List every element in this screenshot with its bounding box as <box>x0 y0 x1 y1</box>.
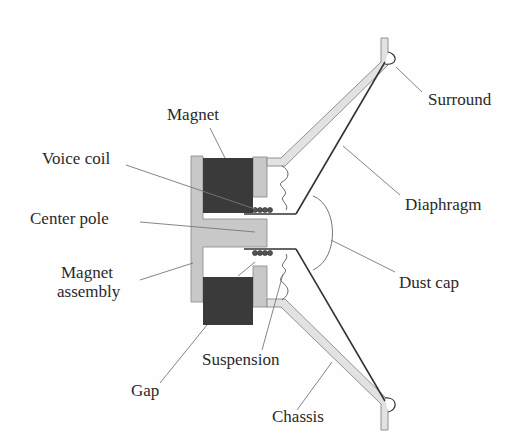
top-plate <box>253 157 267 197</box>
leader-surround <box>396 67 422 92</box>
suspension-top <box>280 166 288 210</box>
label-magnet-assembly-1: Magnet <box>61 264 113 282</box>
magnet-bottom <box>203 277 253 325</box>
suspension-bottom <box>280 254 288 300</box>
magnet-top <box>203 158 253 213</box>
speaker-diagram: Magnet Voice coil Center pole Magnet ass… <box>0 0 531 445</box>
leader-gap-inner <box>238 262 255 276</box>
leader-gap <box>160 325 207 383</box>
chassis-top <box>267 38 388 166</box>
label-dust-cap: Dust cap <box>399 274 459 292</box>
label-gap: Gap <box>131 382 159 400</box>
leader-chassis <box>297 362 332 410</box>
leader-magnet-assembly <box>140 263 193 280</box>
label-chassis: Chassis <box>272 408 324 426</box>
label-voice-coil: Voice coil <box>42 150 110 168</box>
label-center-pole: Center pole <box>30 210 109 228</box>
leader-dust-cap <box>331 240 395 272</box>
dust-cap <box>313 196 333 270</box>
bottom-plate <box>253 266 267 307</box>
label-surround: Surround <box>428 91 491 109</box>
leader-magnet <box>210 128 225 158</box>
label-suspension: Suspension <box>202 351 279 369</box>
label-magnet-assembly-2: assembly <box>57 283 120 301</box>
label-diaphragm: Diaphragm <box>405 196 481 214</box>
label-magnet: Magnet <box>167 106 219 124</box>
leader-diaphragm <box>343 146 400 195</box>
